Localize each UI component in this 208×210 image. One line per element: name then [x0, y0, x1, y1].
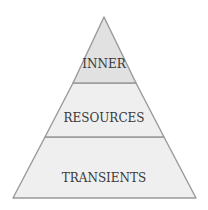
tier-resources-shape: [45, 83, 164, 137]
pyramid-diagram: INNER RESOURCES TRANSIENTS: [0, 0, 208, 210]
tier-inner-shape: [73, 17, 136, 83]
tier-transients-label: TRANSIENTS: [62, 171, 147, 185]
tier-inner-label: INNER: [82, 57, 127, 71]
tier-transients-shape: [13, 137, 196, 198]
tier-resources-label: RESOURCES: [63, 111, 144, 125]
